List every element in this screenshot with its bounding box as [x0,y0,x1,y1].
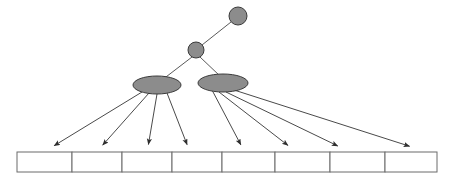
leaf-array [17,152,437,172]
leaf-cell-4[interactable] [222,152,275,172]
diagram-svg [0,0,455,183]
leaf-cell-7[interactable] [385,152,437,172]
pointer-arrow-left-4 [167,93,187,145]
leaf-cell-5[interactable] [275,152,330,172]
pointer-arrow-group [54,90,409,146]
pointer-arrow-left-1 [54,92,142,146]
directory-node-right[interactable] [198,74,248,92]
leaf-cell-2[interactable] [122,152,172,172]
leaf-cell-3[interactable] [172,152,222,172]
directory-node-left[interactable] [133,76,181,94]
pointer-arrow-right-2 [219,92,288,145]
internal-node[interactable] [188,42,204,58]
leaf-cell-0[interactable] [17,152,72,172]
edge-root-to-internal [202,22,231,45]
leaf-cell-6[interactable] [330,152,385,172]
edge-internal-to-directory-right [200,57,220,76]
pointer-arrow-left-3 [148,94,157,145]
leaf-cell-1[interactable] [72,152,122,172]
directory-node-group [133,74,248,94]
root-node[interactable] [229,7,247,25]
diagram-canvas [0,0,455,183]
pointer-arrow-left-2 [103,93,149,145]
pointer-arrow-right-3 [226,92,338,146]
